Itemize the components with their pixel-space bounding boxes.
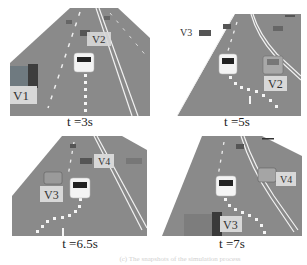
figure-caption: (c) The snapshots of the simulation proc… (70, 255, 290, 265)
time-label-t7: t =7s (212, 236, 252, 252)
time-label-t3: t =3s (60, 114, 100, 130)
vehicle-v1-icon (10, 64, 38, 88)
panel-t7: V4 V3 (162, 136, 302, 236)
distant-car-icon (66, 20, 72, 24)
panel-t6-5: V3 V4 (12, 136, 147, 236)
vehicle-v2-icon (263, 56, 283, 74)
vehicle-v3-icon (44, 172, 62, 184)
label-v3: V3 (44, 188, 59, 202)
label-v4: V4 (280, 174, 292, 185)
label-v3: V3 (180, 27, 192, 38)
label-v4: V4 (98, 156, 110, 167)
road-scene: V4 V3 (162, 136, 302, 236)
road-scene: V1 V2 (10, 8, 150, 116)
road-scene: V3 V4 (12, 136, 147, 236)
ego-car-icon (219, 54, 237, 74)
vehicle-v3-icon (184, 212, 222, 236)
distant-car-icon (126, 158, 142, 164)
distant-car-icon (223, 24, 231, 29)
road-scene: V3 V2 (177, 14, 301, 116)
vehicle-v4-icon (258, 168, 276, 182)
time-label-t5: t =5s (217, 114, 257, 130)
distant-car-icon (236, 144, 244, 149)
panel-t5: V3 V2 (177, 14, 301, 116)
label-v2: V2 (92, 33, 105, 45)
vehicle-v4-icon (80, 158, 92, 164)
distant-car-icon (104, 16, 110, 20)
panel-t3: V1 V2 (10, 8, 150, 116)
ego-car-icon (74, 53, 94, 72)
ego-car-icon (216, 176, 236, 196)
distant-car-icon (70, 144, 76, 148)
label-v1: V1 (13, 88, 29, 103)
time-label-t6-5: t =6.5s (55, 236, 105, 252)
label-v3: V3 (223, 218, 238, 232)
distant-car-icon (273, 26, 283, 31)
ego-car-icon (70, 178, 90, 198)
label-v2: V2 (268, 77, 283, 91)
vehicle-v3-icon (199, 30, 211, 36)
